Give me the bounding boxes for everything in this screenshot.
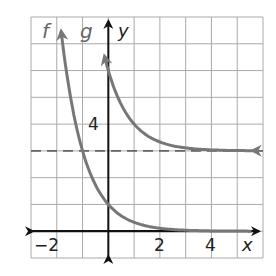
exponential-graph: f g y x −2 2 4 4 — [0, 0, 276, 276]
tick-label-x-4: 4 — [205, 235, 216, 255]
label-g: g — [80, 19, 93, 43]
tick-label-x-neg2: −2 — [34, 235, 59, 255]
tick-label-y-4: 4 — [88, 114, 99, 134]
y-axis-label: y — [117, 20, 129, 41]
label-f: f — [42, 19, 52, 43]
tick-label-x-2: 2 — [154, 235, 165, 255]
x-axis-label: x — [241, 234, 253, 255]
grid — [31, 17, 263, 258]
